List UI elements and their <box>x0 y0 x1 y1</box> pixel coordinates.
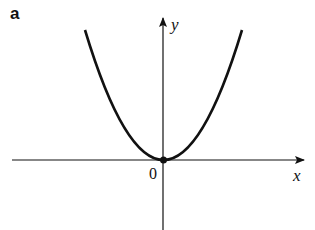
y-axis-label: y <box>169 15 179 34</box>
origin-label: 0 <box>149 165 157 182</box>
vertex-point <box>160 157 167 164</box>
x-axis-label: x <box>292 166 301 185</box>
parabola-diagram: y x 0 <box>0 0 315 230</box>
